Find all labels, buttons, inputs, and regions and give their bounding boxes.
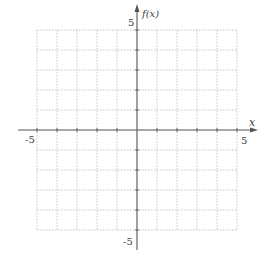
coordinate-plane: x f(x) -5 5 5 -5 [0,0,270,264]
x-min-tick-label: -5 [25,134,35,145]
x-axis-label: x [249,116,256,129]
y-axis-arrow-icon [135,4,140,12]
y-min-tick-label: -5 [123,236,133,247]
y-max-tick-label: 5 [128,17,134,28]
y-axis-label: f(x) [141,8,159,19]
x-max-tick-label: 5 [241,135,247,146]
